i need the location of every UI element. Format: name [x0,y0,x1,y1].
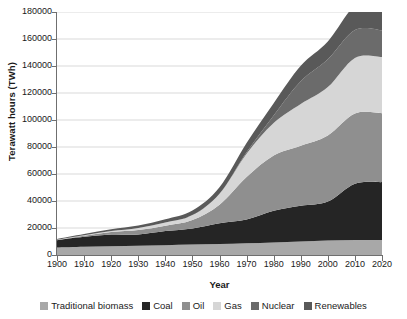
legend-swatch-icon [142,302,150,310]
x-axis-title: Year [57,279,382,290]
x-axis-tick-mark [111,256,112,261]
y-axis-tick-label: 80000 [8,142,52,151]
y-axis-tick-mark [52,174,57,175]
y-axis-tick-label: 120000 [8,88,52,97]
x-axis-tick-mark [247,256,248,261]
x-axis-tick-mark [138,256,139,261]
x-axis-tick-mark [57,256,58,261]
legend-item-label: Traditional biomass [51,300,133,311]
legend-swatch-icon [40,302,48,310]
legend-item[interactable]: Coal [142,300,173,311]
y-axis-tick-mark [52,201,57,202]
legend-item[interactable]: Renewables [304,300,367,311]
y-axis-tick-label: 100000 [8,115,52,124]
legend-swatch-icon [251,302,259,310]
legend-item-label: Oil [193,300,205,311]
x-axis-tick-mark [165,256,166,261]
x-axis-tick-mark [328,256,329,261]
chart-legend: Traditional biomassCoalOilGasNuclearRene… [0,300,407,311]
y-axis-tick-label: 0 [8,250,52,259]
x-axis-tick-mark [301,256,302,261]
stacked-area-chart: Terawatt hours (TWh) 0200004000060000800… [0,0,407,319]
y-axis-tick-mark [52,39,57,40]
legend-item[interactable]: Oil [182,300,205,311]
legend-item[interactable]: Traditional biomass [40,300,133,311]
legend-swatch-icon [304,302,312,310]
legend-item-label: Gas [224,300,241,311]
y-axis-tick-label: 180000 [8,7,52,16]
legend-item-label: Coal [153,300,173,311]
plot-area [57,12,382,255]
y-axis-tick-label: 40000 [8,196,52,205]
y-axis-tick-mark [52,66,57,67]
x-axis-tick-mark [220,256,221,261]
y-axis-tick-mark [52,93,57,94]
legend-item[interactable]: Nuclear [251,300,295,311]
y-axis-tick-label: 140000 [8,61,52,70]
legend-swatch-icon [182,302,190,310]
y-axis-tick-mark [52,120,57,121]
y-axis-tick-mark [52,228,57,229]
y-axis-tick-mark [52,147,57,148]
y-axis-tick-label: 60000 [8,169,52,178]
y-axis-tick-label: 160000 [8,34,52,43]
y-axis-tick-mark [52,12,57,13]
y-axis-tick-label: 20000 [8,223,52,232]
x-axis-tick-mark [84,256,85,261]
x-axis-tick-mark [382,256,383,261]
legend-item[interactable]: Gas [213,300,241,311]
x-axis-tick-mark [355,256,356,261]
legend-item-label: Nuclear [262,300,295,311]
legend-item-label: Renewables [315,300,367,311]
x-axis-tick-mark [274,256,275,261]
legend-swatch-icon [213,302,221,310]
x-axis-tick-mark [192,256,193,261]
y-axis-tick-labels: 0200004000060000800001000001200001400001… [0,0,52,319]
area-series-group [57,12,382,255]
